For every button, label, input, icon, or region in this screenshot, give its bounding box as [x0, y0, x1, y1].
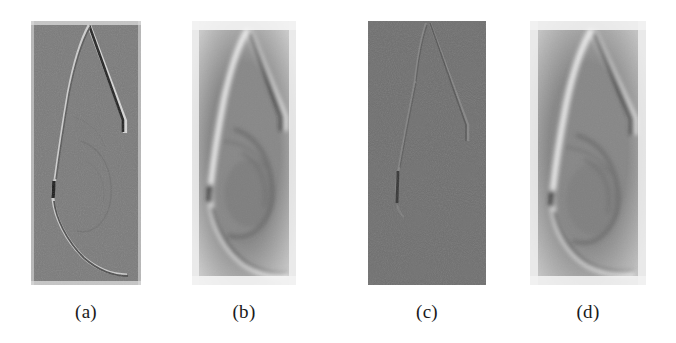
figure-panel-a — [31, 21, 141, 285]
panel-caption-b: (b) — [204, 301, 284, 323]
panel-caption-d: (d) — [548, 301, 628, 323]
figure-panel-d — [530, 21, 646, 285]
mammogram-image-b — [192, 21, 296, 285]
panel-caption-a: (a) — [46, 301, 126, 323]
mammogram-image-c — [368, 21, 486, 285]
mammogram-image-d — [530, 21, 646, 285]
panel-caption-c: (c) — [387, 301, 467, 323]
mammogram-image-a — [31, 21, 141, 285]
figure-panel-row: (a) — [0, 0, 676, 343]
figure-panel-b — [192, 21, 296, 285]
figure-panel-c — [368, 21, 486, 285]
